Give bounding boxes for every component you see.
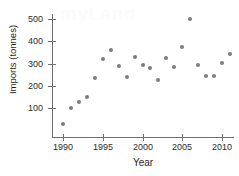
y-tick-label: 400 bbox=[13, 37, 43, 46]
x-axis-title: Year bbox=[52, 157, 234, 168]
y-tick-label: 200 bbox=[13, 82, 43, 91]
y-tick-label: 300 bbox=[13, 60, 43, 69]
data-point bbox=[125, 75, 129, 79]
data-point bbox=[212, 74, 216, 78]
y-tick-mark bbox=[48, 19, 56, 20]
data-point bbox=[85, 95, 89, 99]
data-point bbox=[101, 57, 105, 61]
data-point bbox=[180, 45, 184, 49]
data-point bbox=[196, 63, 200, 67]
data-point bbox=[69, 106, 73, 110]
data-point bbox=[188, 17, 192, 21]
y-tick-mark bbox=[48, 64, 56, 65]
data-point bbox=[117, 64, 121, 68]
y-tick-label: 100 bbox=[13, 104, 43, 113]
x-tick-label: 1995 bbox=[83, 143, 123, 152]
y-tick-mark bbox=[48, 86, 56, 87]
x-tick-mark bbox=[222, 134, 223, 141]
data-point bbox=[220, 61, 224, 65]
x-tick-mark bbox=[182, 134, 183, 141]
data-point bbox=[141, 63, 145, 67]
x-tick-mark bbox=[143, 134, 144, 141]
x-tick-label: 2010 bbox=[202, 143, 239, 152]
data-point bbox=[156, 78, 160, 82]
data-point bbox=[172, 65, 176, 69]
data-point bbox=[164, 56, 168, 60]
data-point bbox=[133, 55, 137, 59]
x-tick-mark bbox=[63, 134, 64, 141]
x-tick-label: 2000 bbox=[123, 143, 163, 152]
data-point bbox=[109, 48, 113, 52]
data-point bbox=[148, 66, 152, 70]
y-tick-label: 500 bbox=[13, 15, 43, 24]
y-tick-mark bbox=[48, 41, 56, 42]
data-point bbox=[61, 122, 65, 126]
x-tick-label: 2005 bbox=[162, 143, 202, 152]
data-point bbox=[77, 100, 81, 104]
plot-area: 100200300400500 19901995200020052010 Yea… bbox=[0, 0, 239, 176]
data-point bbox=[93, 76, 97, 80]
scatter-chart-figure: myLand 100200300400500 19901995200020052… bbox=[0, 0, 239, 176]
y-axis-line bbox=[52, 14, 53, 138]
x-tick-mark bbox=[103, 134, 104, 141]
data-point bbox=[228, 52, 232, 56]
y-axis-title: Imports (tonnes) bbox=[7, 5, 18, 115]
data-point bbox=[204, 74, 208, 78]
x-tick-label: 1990 bbox=[43, 143, 83, 152]
y-tick-mark bbox=[48, 108, 56, 109]
